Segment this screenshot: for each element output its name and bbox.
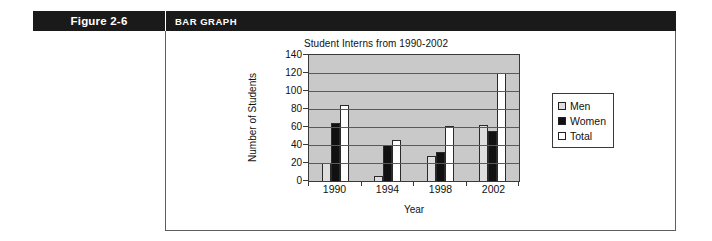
gridline	[309, 145, 519, 146]
gridline	[309, 109, 519, 110]
bar-total-1990	[340, 105, 349, 181]
gridline	[309, 163, 519, 164]
legend-label: Total	[570, 130, 592, 142]
legend-label: Men	[570, 100, 590, 112]
bar-total-1998	[445, 126, 454, 181]
figure-number-label: Figure 2-6	[33, 15, 165, 27]
y-axis-tick-label: 20	[268, 157, 302, 168]
x-axis-tick-label: 1998	[429, 183, 452, 195]
figure-content-frame: Student Interns from 1990-2002 Number of…	[165, 31, 676, 231]
chart-title: Student Interns from 1990-2002	[166, 38, 586, 49]
legend-label: Women	[570, 115, 606, 127]
y-axis-title-text: Number of Students	[247, 73, 258, 162]
legend-item-women: Women	[558, 113, 606, 128]
y-axis-tick-label: 0	[268, 175, 302, 186]
legend-item-total: Total	[558, 128, 606, 143]
figure-banner: Figure 2-6 BAR GRAPH	[33, 11, 676, 31]
bar-men-2002	[479, 125, 488, 181]
legend-swatch-total	[558, 132, 566, 140]
bar-women-1990	[331, 123, 340, 181]
bar-women-1998	[436, 152, 445, 181]
gridline	[309, 127, 519, 128]
y-axis-tick-label: 80	[268, 103, 302, 114]
gridline	[309, 91, 519, 92]
legend-item-men: Men	[558, 98, 606, 113]
gridline	[309, 73, 519, 74]
y-axis-tick-label: 60	[268, 121, 302, 132]
bar-chart: Student Interns from 1990-2002 Number of…	[166, 31, 677, 231]
legend-swatch-women	[558, 117, 566, 125]
x-axis-tick-label: 1994	[376, 183, 399, 195]
x-axis-labels: 1990199419982002	[308, 183, 520, 195]
bar-men-1990	[322, 163, 331, 181]
x-axis-title: Year	[308, 204, 520, 215]
y-axis-title: Number of Students	[244, 54, 260, 181]
chart-legend: MenWomenTotal	[552, 93, 614, 148]
x-axis-tick-label: 1990	[323, 183, 346, 195]
bar-men-1998	[427, 156, 436, 181]
legend-swatch-men	[558, 102, 566, 110]
y-axis-tick-label: 120	[268, 67, 302, 78]
y-axis-tick-label: 40	[268, 139, 302, 150]
y-axis-tick-label: 140	[268, 49, 302, 60]
bar-women-2002	[488, 131, 497, 181]
figure-type-title: BAR GRAPH	[166, 16, 237, 27]
plot-area	[308, 54, 520, 182]
y-axis-tick-label: 100	[268, 85, 302, 96]
x-axis-tick-label: 2002	[482, 183, 505, 195]
y-axis: 020406080100120140	[266, 54, 308, 181]
